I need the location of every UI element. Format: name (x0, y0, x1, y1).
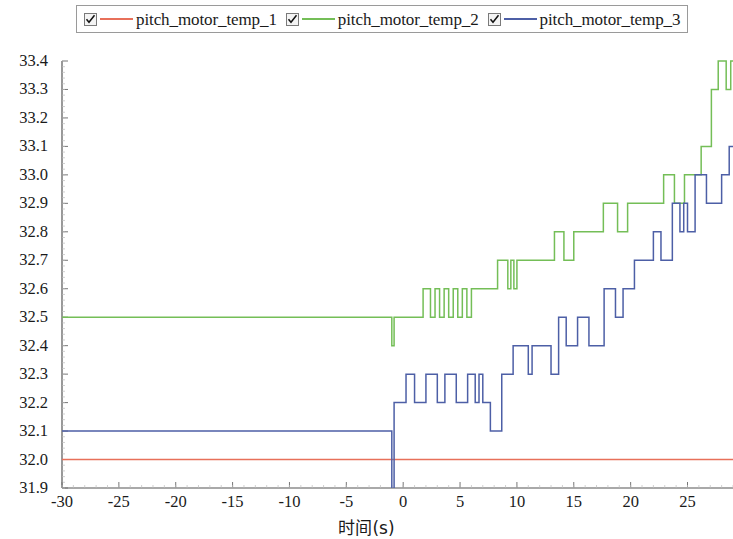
x-axis-tick-label: 25 (679, 494, 696, 510)
x-axis-tick-label: -30 (51, 494, 73, 510)
legend-label-2: pitch_motor_temp_2 (338, 11, 479, 28)
x-axis-tick-label: 5 (456, 494, 464, 510)
y-axis-tick-label: 32.7 (4, 252, 48, 268)
y-axis-tick-label: 32.4 (4, 338, 48, 354)
x-axis-tick-label: 0 (399, 494, 407, 510)
y-axis-tick-label: 32.5 (4, 309, 48, 325)
y-axis-tick-label: 32.2 (4, 395, 48, 411)
legend-color-swatch-1 (100, 18, 133, 20)
x-axis-title: 时间(s) (0, 514, 733, 539)
legend-label-1: pitch_motor_temp_1 (136, 11, 277, 28)
x-axis-tick-label: 15 (566, 494, 583, 510)
y-axis-tick-label: 32.9 (4, 195, 48, 211)
series-line-pitch_motor_temp_2 (62, 61, 733, 346)
x-axis-tick-label: -5 (339, 494, 353, 510)
y-axis-tick-label: 32.8 (4, 224, 48, 240)
y-axis-tick-label: 32.6 (4, 281, 48, 297)
legend-color-swatch-2 (302, 18, 335, 20)
checkbox-checked-icon[interactable] (84, 13, 97, 26)
chart-legend: pitch_motor_temp_1 pitch_motor_temp_2 pi… (76, 5, 688, 33)
checkbox-checked-icon[interactable] (286, 13, 299, 26)
x-axis-tick-label: -10 (278, 494, 300, 510)
x-axis-tick-label: -20 (165, 494, 187, 510)
legend-entry-pitch-motor-temp-1[interactable]: pitch_motor_temp_1 (84, 11, 277, 28)
x-axis-tick-label: -25 (108, 494, 130, 510)
plot-area: 31.932.032.132.232.332.432.532.632.732.8… (0, 40, 733, 539)
y-axis-tick-labels: 31.932.032.132.232.332.432.532.632.732.8… (0, 40, 48, 539)
x-axis-tick-label: -15 (222, 494, 244, 510)
y-axis-tick-label: 33.0 (4, 167, 48, 183)
series-line-pitch_motor_temp_3 (62, 146, 733, 493)
y-axis-tick-label: 32.3 (4, 366, 48, 382)
x-axis-tick-label: 20 (622, 494, 639, 510)
y-axis-tick-label: 32.1 (4, 423, 48, 439)
x-axis-tick-label: 10 (509, 494, 526, 510)
chart-container: pitch_motor_temp_1 pitch_motor_temp_2 pi… (0, 0, 733, 539)
y-axis-tick-label: 33.3 (4, 81, 48, 97)
y-axis-tick-label: 33.4 (4, 53, 48, 69)
y-axis-tick-label: 32.0 (4, 452, 48, 468)
y-axis-tick-label: 33.2 (4, 110, 48, 126)
checkbox-checked-icon[interactable] (488, 13, 501, 26)
chart-canvas (0, 40, 733, 539)
legend-color-swatch-3 (504, 18, 537, 20)
legend-entry-pitch-motor-temp-2[interactable]: pitch_motor_temp_2 (286, 11, 479, 28)
legend-entry-pitch-motor-temp-3[interactable]: pitch_motor_temp_3 (488, 11, 681, 28)
y-axis-tick-label: 33.1 (4, 138, 48, 154)
legend-label-3: pitch_motor_temp_3 (540, 11, 681, 28)
